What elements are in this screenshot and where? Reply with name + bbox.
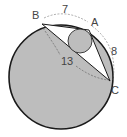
incircle [68,29,92,53]
point-label-c: C [111,84,119,96]
side-label-ab: 7 [62,3,68,15]
side-label-bc: 13 [61,55,73,67]
dimension-arc-ab [44,14,88,22]
side-label-ac: 8 [111,45,117,57]
circumcircle [9,25,113,129]
point-label-a: A [91,16,99,28]
geometry-diagram: B A C 7 8 13 [0,0,127,137]
point-label-b: B [32,9,39,21]
